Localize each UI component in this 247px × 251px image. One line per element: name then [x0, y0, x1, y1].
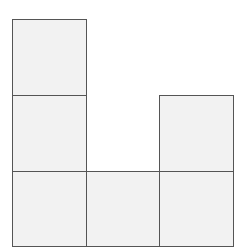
- unit-square: [12, 171, 87, 248]
- unit-square: [159, 171, 234, 248]
- unit-square: [12, 19, 87, 96]
- unit-square: [159, 95, 234, 172]
- unit-square: [12, 95, 87, 172]
- unit-square: [86, 171, 161, 248]
